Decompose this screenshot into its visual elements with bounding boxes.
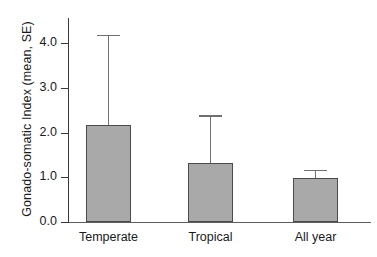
- bar-chart: Gonado-somatic Index (mean, SE) 4.0 3.0 …: [0, 0, 377, 257]
- error-bar-cap-temperate: [97, 35, 120, 36]
- y-tick-mark-4: [61, 43, 69, 44]
- error-bar-cap-tropical: [199, 115, 222, 116]
- bar-tropical: [188, 163, 233, 222]
- bar-all-year: [293, 178, 338, 222]
- y-tick-mark-0: [61, 222, 69, 223]
- error-bar-stem-temperate: [108, 35, 109, 125]
- y-tick-label-1: 1.0: [17, 170, 57, 183]
- y-tick-mark-2: [61, 133, 69, 134]
- x-axis-label-tropical: Tropical: [151, 230, 271, 244]
- y-tick-mark-1: [61, 177, 69, 178]
- error-bar-stem-tropical: [210, 115, 211, 163]
- y-tick-mark-3: [61, 88, 69, 89]
- y-tick-label-2: 2.0: [17, 126, 57, 139]
- y-tick-label-3: 3.0: [17, 81, 57, 94]
- y-tick-label-4: 4.0: [17, 36, 57, 49]
- y-axis-line: [68, 18, 69, 223]
- x-axis-line: [68, 222, 371, 223]
- y-tick-label-0: 0.0: [17, 215, 57, 228]
- error-bar-cap-all-year: [304, 170, 327, 171]
- x-axis-label-all-year: All year: [256, 230, 376, 244]
- bar-temperate: [86, 125, 131, 222]
